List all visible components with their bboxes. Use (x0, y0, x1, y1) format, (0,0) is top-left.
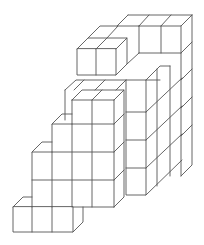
middle-tier (65, 66, 182, 195)
bottom-row-cubes (13, 197, 83, 232)
lower-left-tower (32, 114, 114, 207)
upper-left-block (77, 26, 139, 75)
cube-diagram (0, 0, 204, 245)
cube-structure-drawing (0, 0, 204, 245)
main-front-column (72, 90, 124, 207)
top-back-row (117, 15, 192, 176)
